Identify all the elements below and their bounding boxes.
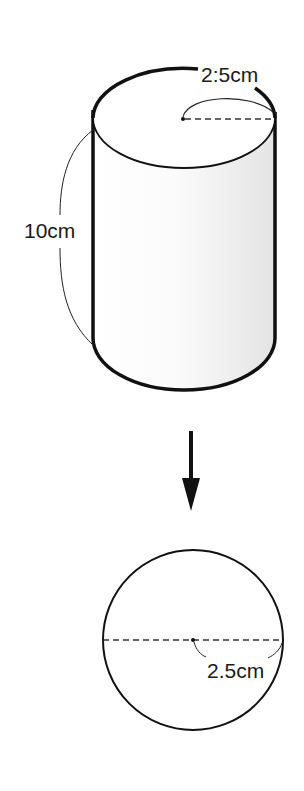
sphere-radius-label: 2.5cm	[207, 659, 264, 682]
sphere-center-dot	[191, 638, 195, 642]
cylinder-to-sphere-diagram: 2:5cm 10cm 2.5cm	[0, 0, 304, 791]
sphere: 2.5cm	[103, 550, 283, 730]
cylinder-height-label: 10cm	[24, 219, 75, 242]
cylinder: 2:5cm 10cm	[24, 63, 275, 390]
down-arrow-icon	[182, 431, 200, 511]
cylinder-center-dot	[181, 117, 185, 121]
cylinder-height-bracket-top	[60, 130, 93, 215]
cylinder-height-bracket-bottom	[60, 248, 93, 345]
cylinder-radius-label: 2:5cm	[201, 63, 258, 86]
